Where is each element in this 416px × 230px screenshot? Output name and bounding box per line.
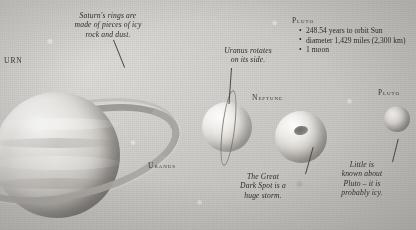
list-item: 1 moon bbox=[300, 45, 408, 55]
fact-box-heading: Pluto bbox=[292, 16, 408, 25]
pluto-planet-body bbox=[384, 106, 410, 132]
pluto-illustration bbox=[382, 104, 416, 138]
label-saturn: URN bbox=[4, 56, 23, 65]
label-neptune: Neptune bbox=[252, 93, 283, 102]
illustration-canvas: URN Saturn's rings are made of pieces of… bbox=[0, 0, 416, 230]
annotation-saturn-rings: Saturn's rings are made of pieces of icy… bbox=[62, 11, 154, 39]
annotation-pluto-unknown: Little is known about Pluto – it is prob… bbox=[322, 160, 402, 198]
neptune-planet-body bbox=[275, 111, 327, 163]
uranus-illustration bbox=[196, 96, 260, 168]
annotation-uranus-rotation: Uranus rotates on its side. bbox=[206, 46, 290, 65]
great-dark-spot bbox=[293, 125, 308, 136]
pluto-fact-box: Pluto 248.54 years to orbit Sun diameter… bbox=[292, 16, 408, 55]
saturn-illustration bbox=[0, 58, 174, 230]
label-pluto-planet: Pluto bbox=[378, 88, 400, 97]
fact-box-list: 248.54 years to orbit Sun diameter 1,429… bbox=[292, 26, 408, 55]
label-uranus: Uranus bbox=[148, 161, 176, 170]
list-item: 248.54 years to orbit Sun bbox=[300, 26, 408, 36]
annotation-dark-spot: The Great Dark Spot is a huge storm. bbox=[220, 172, 306, 200]
list-item: diameter 1,429 miles (2,300 km) bbox=[300, 36, 408, 46]
